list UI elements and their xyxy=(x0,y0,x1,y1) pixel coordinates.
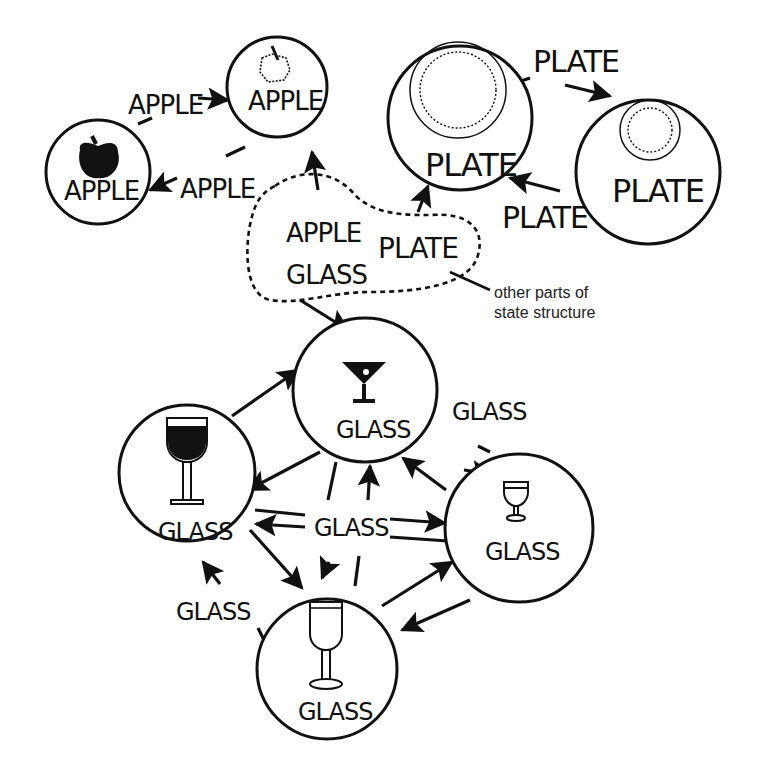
region-note-line2: state structure xyxy=(494,304,595,321)
node-label: APPLE xyxy=(64,176,139,206)
edge-apple-bottom-tail xyxy=(226,147,245,156)
edge-small-to-martini xyxy=(403,458,446,490)
node-apple-solid: APPLE xyxy=(46,120,150,224)
edge-plate-top xyxy=(565,85,610,96)
edge-label-plate-top: PLATE xyxy=(533,44,619,79)
edge-to-tall xyxy=(322,562,329,578)
edge-wine-to-martini xyxy=(232,370,298,416)
edge-label-glass-right: GLASS xyxy=(452,398,526,426)
edge-martini-to-wine xyxy=(248,452,320,490)
state-structure-diagram: APPLE GLASS PLATE other parts of state s… xyxy=(0,0,757,776)
node-label: GLASS xyxy=(158,518,232,546)
node-label: PLATE xyxy=(425,146,517,184)
region-plate-label: PLATE xyxy=(378,232,458,265)
node-apple-outline: APPLE xyxy=(227,37,327,137)
edge-glass-right-tail xyxy=(478,446,490,452)
edge-apple-bottom xyxy=(150,178,177,190)
node-label: PLATE xyxy=(612,172,704,210)
node-glass-small: GLASS xyxy=(445,454,593,602)
edge-tall-up-tail xyxy=(355,556,359,586)
edge-center-to-wine xyxy=(256,524,305,527)
node-label: GLASS xyxy=(336,416,410,444)
edge-center-to-small xyxy=(390,519,445,523)
edge-label-apple-top: APPLE xyxy=(128,90,203,120)
edge-small-to-tall xyxy=(402,600,470,630)
edge-martini-down-tail xyxy=(328,462,336,500)
edge-label-glass-left: GLASS xyxy=(176,598,250,626)
node-glass-tall: GLASS xyxy=(257,599,397,739)
edge-region-to-apple xyxy=(312,152,318,190)
edge-wine-to-tall xyxy=(250,530,302,588)
note-leader-line xyxy=(450,272,490,290)
state-structure-region: APPLE GLASS PLATE other parts of state s… xyxy=(247,174,595,321)
edge-label-plate-bottom: PLATE xyxy=(502,200,588,235)
edge-label-apple-bottom: APPLE xyxy=(180,174,255,204)
edge-tall-to-small xyxy=(382,562,452,606)
edge-wine-right-tail xyxy=(255,510,305,515)
region-glass-label: GLASS xyxy=(286,260,368,290)
node-label: GLASS xyxy=(298,698,372,726)
node-plate-large: PLATE xyxy=(388,42,532,190)
node-label: APPLE xyxy=(248,86,323,116)
node-glass-wine-dark: GLASS xyxy=(119,405,255,546)
region-note-line1: other parts of xyxy=(494,284,589,301)
edge-plate-bottom xyxy=(510,178,560,191)
edge-label-glass-center: GLASS xyxy=(314,514,388,542)
edge-small-left-tail xyxy=(390,537,448,541)
edge-region-to-plate xyxy=(418,186,428,212)
node-label: GLASS xyxy=(485,538,559,566)
edge-glass-left xyxy=(203,562,220,584)
node-plate-small: PLATE xyxy=(576,100,720,244)
region-apple-label: APPLE xyxy=(286,218,361,248)
node-glass-martini: GLASS xyxy=(293,318,437,462)
edge-to-martini-up xyxy=(368,466,370,500)
